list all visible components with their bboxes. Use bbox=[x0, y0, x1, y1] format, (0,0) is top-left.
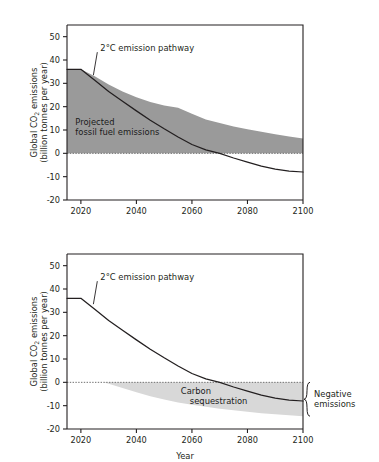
y-tick-label: 50 bbox=[50, 261, 60, 271]
y-tick-label: -20 bbox=[47, 195, 60, 205]
annotation-sequestration-line2: sequestration bbox=[190, 396, 248, 406]
subplot-top: -20-100102030405020202040206020802100Glo… bbox=[29, 25, 313, 216]
annotation-negative-line1: Negative bbox=[314, 389, 352, 399]
y-axis-title-line1-tail: emissions bbox=[29, 68, 39, 112]
x-tick-label: 2020 bbox=[70, 435, 91, 445]
annotation-projected-line2: fossil fuel emissions bbox=[75, 127, 159, 137]
y-tick-label: 0 bbox=[55, 148, 60, 158]
figure-root: -20-100102030405020202040206020802100Glo… bbox=[0, 0, 379, 462]
annotation-pathway-leader-line bbox=[93, 281, 97, 304]
x-tick-label: 2060 bbox=[182, 206, 203, 216]
y-tick-label: 40 bbox=[50, 284, 60, 294]
x-tick-label: 2040 bbox=[126, 206, 147, 216]
y-tick-label: 10 bbox=[50, 354, 60, 364]
y-tick-label: 30 bbox=[50, 78, 60, 88]
y-tick-label: 0 bbox=[55, 377, 60, 387]
y-tick-label: 30 bbox=[50, 307, 60, 317]
x-tick-label: 2080 bbox=[237, 435, 258, 445]
x-tick-label: 2020 bbox=[70, 206, 91, 216]
subplot-bottom: -20-100102030405020202040206020802100Glo… bbox=[29, 254, 356, 461]
y-axis-title-line2: (billion tonnes per year) bbox=[39, 62, 49, 163]
chart-canvas: -20-100102030405020202040206020802100Glo… bbox=[0, 0, 379, 462]
annotation-pathway-leader-line bbox=[93, 52, 97, 75]
y-tick-label: 20 bbox=[50, 331, 60, 341]
x-tick-label: 2100 bbox=[293, 435, 314, 445]
y-tick-label: -10 bbox=[47, 401, 60, 411]
annotation-negative-line2: emissions bbox=[314, 399, 356, 409]
x-tick-label: 2100 bbox=[293, 206, 314, 216]
y-tick-label: -20 bbox=[47, 424, 60, 434]
y-tick-label: 40 bbox=[50, 55, 60, 65]
x-tick-label: 2040 bbox=[126, 435, 147, 445]
x-axis-title: Year bbox=[175, 451, 194, 461]
x-tick-label: 2080 bbox=[237, 206, 258, 216]
y-axis-title-line1-tail: emissions bbox=[29, 297, 39, 341]
y-tick-label: 20 bbox=[50, 102, 60, 112]
y-tick-label: -10 bbox=[47, 172, 60, 182]
negative-emissions-brace bbox=[304, 382, 310, 416]
y-tick-label: 50 bbox=[50, 32, 60, 42]
annotation-pathway-label: 2°C emission pathway bbox=[100, 43, 194, 53]
y-axis-title: Global CO2 emissions(billion tonnes per … bbox=[29, 291, 49, 392]
x-tick-label: 2060 bbox=[182, 435, 203, 445]
annotation-pathway-label: 2°C emission pathway bbox=[100, 272, 194, 282]
y-tick-label: 10 bbox=[50, 125, 60, 135]
annotation-sequestration-line1: Carbon bbox=[181, 386, 211, 396]
y-axis-title: Global CO2 emissions(billion tonnes per … bbox=[29, 62, 49, 163]
y-axis-title-line2: (billion tonnes per year) bbox=[39, 291, 49, 392]
annotation-projected-line1: Projected bbox=[75, 117, 114, 127]
